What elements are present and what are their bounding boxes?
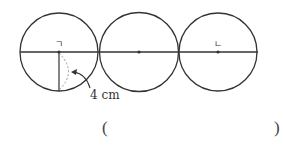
center-label-3: ㄴ	[214, 39, 222, 49]
radius-label: 4 cm	[90, 88, 120, 102]
center-point-2	[137, 50, 140, 53]
center-label-1: ㄱ	[55, 39, 63, 49]
circles-diagram: ㄱ ㄴ 4 cm	[0, 0, 283, 150]
answer-close-paren: )	[274, 118, 280, 138]
pointer-arrow	[74, 72, 90, 88]
answer-open-paren: (	[102, 118, 108, 138]
arrow-head-icon	[71, 69, 77, 75]
radius-dashed-arc	[59, 53, 69, 90]
center-point-1	[57, 50, 60, 53]
center-point-3	[216, 50, 219, 53]
